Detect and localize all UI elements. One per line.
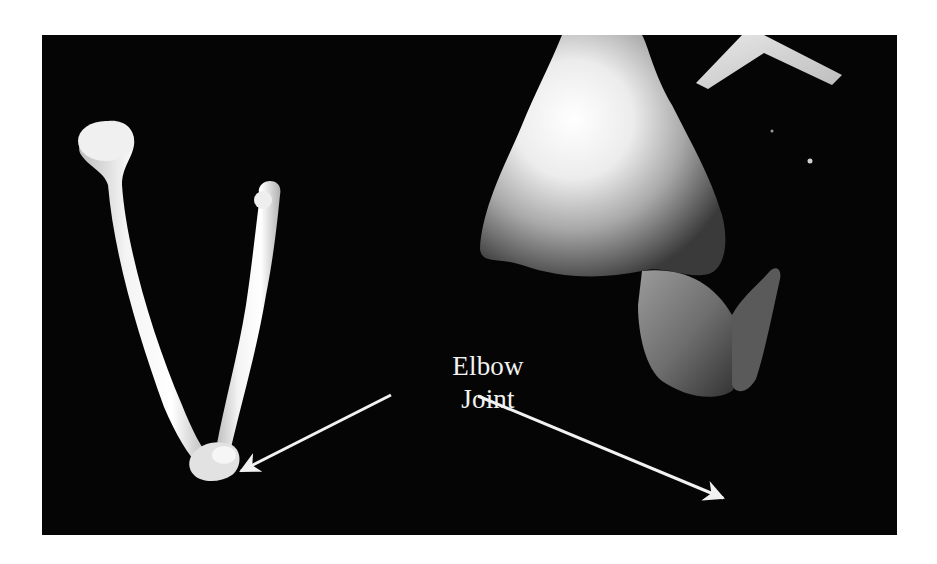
radius-knob — [254, 191, 272, 209]
bone-head — [78, 121, 134, 161]
joint-condyle — [212, 446, 236, 464]
figure-graphic — [42, 35, 897, 535]
flexed-arm — [480, 35, 842, 397]
photo-frame: Elbow Joint — [42, 35, 897, 535]
upper-arm — [480, 35, 725, 276]
highlight-spot — [808, 159, 813, 164]
annotation-label-line1: Elbow — [428, 351, 548, 381]
forearm — [638, 270, 743, 397]
ulna-bone — [79, 121, 212, 467]
radius-bone — [216, 181, 280, 453]
highlight-spot — [771, 130, 774, 133]
arrow-to-bones — [241, 395, 391, 471]
figure: Elbow Joint — [0, 0, 937, 564]
brace-shape — [696, 35, 842, 89]
hand — [732, 268, 780, 391]
annotation-label-line2: Joint — [428, 384, 548, 414]
forearm-bones — [78, 121, 280, 481]
